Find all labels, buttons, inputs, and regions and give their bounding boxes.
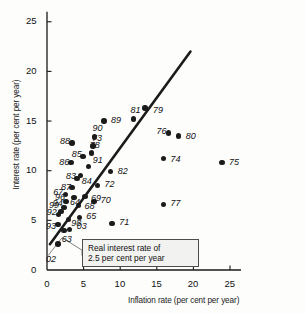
x-tick-label: 0 bbox=[44, 278, 49, 289]
data-point bbox=[166, 130, 171, 135]
data-point-label: 86 bbox=[59, 157, 69, 167]
data-point-label: 79 bbox=[153, 105, 163, 115]
data-point bbox=[55, 241, 60, 246]
data-point bbox=[109, 221, 114, 226]
data-point bbox=[89, 150, 94, 155]
annotation-line-2: 2.5 per cent per year bbox=[88, 253, 194, 263]
data-point bbox=[77, 215, 82, 220]
y-axis-title: Interest rate (per cent per year) bbox=[12, 75, 21, 195]
data-point bbox=[55, 222, 60, 227]
data-point-label: 74 bbox=[170, 154, 180, 164]
data-point-label: 76 bbox=[157, 126, 167, 136]
data-point-label: 84 bbox=[82, 176, 92, 186]
data-point-label: 69 bbox=[91, 193, 101, 203]
annotation-real-interest-rate: Real interest rate of 2.5 per cent per y… bbox=[82, 239, 199, 267]
x-tick-label: 25 bbox=[224, 278, 235, 289]
data-point-label: 88 bbox=[60, 136, 70, 146]
y-tick-label: 5 bbox=[31, 214, 36, 225]
x-tick-label: 15 bbox=[151, 278, 162, 289]
scatter-chart: 0263039398659299949668707764676987728384… bbox=[0, 0, 306, 314]
data-point-label: 82 bbox=[118, 166, 128, 176]
data-point-label: 71 bbox=[119, 217, 129, 227]
y-tick-label: 20 bbox=[26, 65, 37, 76]
data-point bbox=[92, 134, 97, 139]
x-tick-label: 20 bbox=[188, 278, 199, 289]
data-point bbox=[101, 118, 106, 123]
data-point-label: 75 bbox=[229, 157, 239, 167]
x-tick-label: 5 bbox=[81, 278, 86, 289]
data-point-label: 64 bbox=[70, 197, 80, 207]
data-point-label: 89 bbox=[111, 115, 121, 125]
data-point bbox=[69, 140, 74, 145]
x-tick-label: 10 bbox=[115, 278, 126, 289]
data-point-label: 93 bbox=[46, 221, 56, 231]
data-point-label: 85 bbox=[72, 149, 82, 159]
data-point bbox=[82, 194, 87, 199]
data-point bbox=[142, 105, 147, 110]
axis-ticks bbox=[47, 22, 230, 270]
data-point-label: 77 bbox=[170, 198, 180, 208]
y-tick-label: 0 bbox=[31, 264, 36, 275]
data-point-label: 81 bbox=[130, 105, 140, 115]
y-tick-label: 15 bbox=[26, 115, 37, 126]
y-tick-label: 10 bbox=[26, 164, 37, 175]
data-point bbox=[66, 217, 71, 222]
data-point bbox=[219, 160, 224, 165]
data-point bbox=[90, 143, 95, 148]
data-point-label: 80 bbox=[186, 131, 196, 141]
y-tick-label: 25 bbox=[26, 15, 37, 26]
x-axis-title: Inflation rate (per cent per year) bbox=[128, 296, 239, 305]
data-point bbox=[176, 133, 181, 138]
data-point-label: 63 bbox=[62, 234, 72, 244]
data-point bbox=[131, 116, 136, 121]
data-point-label: 87 bbox=[61, 182, 71, 192]
data-point-label: 91 bbox=[93, 155, 103, 165]
data-point-label: 90 bbox=[93, 123, 103, 133]
data-point-label: 72 bbox=[105, 179, 115, 189]
annotation-line-1: Real interest rate of bbox=[88, 243, 194, 253]
data-point-label: 70 bbox=[101, 195, 111, 205]
data-point bbox=[61, 228, 66, 233]
data-point-label: 83 bbox=[66, 171, 76, 181]
data-point-label: 02 bbox=[46, 254, 56, 264]
data-point-label: 65 bbox=[86, 211, 96, 221]
